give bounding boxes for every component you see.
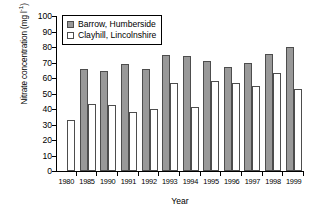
bar	[150, 109, 158, 171]
y-axis-title: Nitrate concentration (mg l-1)	[17, 0, 29, 139]
bar-group	[201, 16, 222, 171]
x-tick-label: 1993	[159, 177, 180, 186]
x-tick-mark	[303, 172, 304, 176]
y-tick-label: 50	[12, 90, 52, 99]
bar	[232, 83, 240, 171]
y-tick-mark	[52, 94, 56, 95]
bar	[108, 105, 116, 171]
bar	[211, 81, 219, 171]
bar	[224, 67, 232, 171]
y-tick-mark	[52, 32, 56, 33]
y-tick-label: 70	[12, 59, 52, 68]
x-tick-label: 1995	[201, 177, 222, 186]
x-tick-label: 1990	[97, 177, 118, 186]
y-tick-mark	[52, 78, 56, 79]
bar-group	[263, 16, 284, 171]
bar	[273, 73, 281, 171]
y-tick-mark	[52, 109, 56, 110]
y-tick-mark	[52, 125, 56, 126]
bar	[244, 63, 252, 172]
x-tick-label: 1992	[139, 177, 160, 186]
bar	[100, 71, 108, 171]
y-tick-label: 60	[12, 74, 52, 83]
legend-row: Clayhill, Lincolnshire	[67, 30, 156, 41]
bar	[142, 69, 150, 171]
y-tick-mark	[52, 140, 56, 141]
bar	[162, 55, 170, 171]
bar-group	[283, 16, 304, 171]
x-tick-label: 1996	[221, 177, 242, 186]
x-tick-label: 1998	[263, 177, 284, 186]
bar	[286, 47, 294, 171]
bar	[294, 89, 302, 171]
x-tick-label: 1991	[118, 177, 139, 186]
y-tick-label: 40	[12, 105, 52, 114]
bar	[67, 120, 75, 171]
x-tick-label: 1985	[77, 177, 98, 186]
bar	[80, 69, 88, 171]
bar-group	[242, 16, 263, 171]
bar	[88, 104, 96, 171]
y-tick-label: 80	[12, 43, 52, 52]
y-tick-label: 0	[12, 167, 52, 176]
y-axis-title-exponent: -1	[17, 6, 24, 11]
y-axis-title-tail: )	[20, 3, 29, 6]
legend-label: Clayhill, Lincolnshire	[78, 31, 156, 40]
x-tick-label: 1994	[180, 177, 201, 186]
bar	[121, 64, 129, 171]
legend-swatch-icon	[67, 32, 74, 39]
y-tick-label: 100	[12, 12, 52, 21]
y-tick-mark	[52, 47, 56, 48]
bar	[183, 56, 191, 171]
x-tick-label: 1980	[56, 177, 77, 186]
legend-row: Barrow, Humberside	[67, 19, 156, 30]
x-tick-label: 1999	[283, 177, 304, 186]
y-tick-label: 10	[12, 152, 52, 161]
bar	[129, 112, 137, 171]
chart-legend: Barrow, HumbersideClayhill, Lincolnshire	[62, 15, 162, 45]
bar	[265, 54, 273, 171]
y-tick-mark	[52, 156, 56, 157]
bar	[170, 83, 178, 171]
bar	[191, 107, 199, 171]
bar-group	[222, 16, 243, 171]
y-tick-label: 90	[12, 28, 52, 37]
bar-group	[180, 16, 201, 171]
y-tick-label: 20	[12, 136, 52, 145]
legend-swatch-icon	[67, 21, 74, 28]
bar	[203, 61, 211, 171]
y-tick-mark	[52, 63, 56, 64]
chart-figure: Nitrate concentration (mg l-1) 010203040…	[0, 0, 311, 218]
y-tick-label: 30	[12, 121, 52, 130]
x-axis-tick-labels: 1980198519901991199219931994199519961997…	[56, 177, 304, 186]
x-tick-label: 1997	[242, 177, 263, 186]
legend-label: Barrow, Humberside	[78, 20, 156, 29]
bar	[252, 86, 260, 171]
bar-group	[160, 16, 181, 171]
x-axis-title: Year	[56, 196, 304, 206]
y-tick-mark	[52, 16, 56, 17]
